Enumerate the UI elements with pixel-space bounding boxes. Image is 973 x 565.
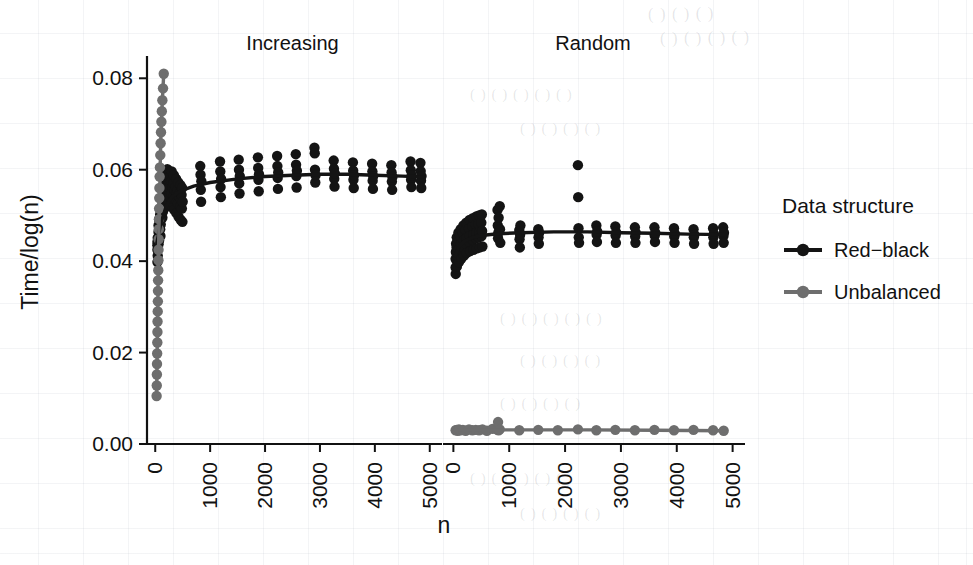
data-point [573,160,583,170]
legend-key-unbalanced[interactable] [784,286,822,298]
x-tick-label: 1000 [497,462,520,509]
data-point [573,192,583,202]
data-point [718,238,728,248]
series-points-red-black [152,143,427,268]
data-point [708,239,718,249]
y-tick-label: 0.02 [92,341,133,364]
scanned-page: ( ) ( ) ( )( ) ( ) ( ) ( )( ) ( ) ( ) ( … [0,0,973,565]
data-point [254,186,264,196]
data-point [368,184,378,194]
x-tick-label: 3000 [609,462,632,509]
data-point [215,156,225,166]
y-axis-title: Time/log(n) [17,194,43,309]
data-point [196,197,206,207]
data-point [630,238,640,248]
panel-title-random: Random [555,32,631,54]
data-point [477,241,487,251]
series-points-unbalanced [450,417,728,436]
data-point [515,242,525,252]
data-point [669,238,679,248]
data-point [310,148,320,158]
data-point [406,182,416,192]
data-point [234,188,244,198]
data-point [177,197,187,207]
x-tick-label: 5000 [721,462,744,509]
data-point [477,209,487,219]
data-point [493,213,503,223]
data-point [534,239,544,249]
data-point [515,220,525,230]
data-point [592,237,602,247]
x-tick-label: 2000 [253,462,276,509]
x-tick-label: 2000 [553,462,576,509]
data-point [291,182,301,192]
x-tick-label: 1000 [198,462,221,509]
x-tick-label: 4000 [363,462,386,509]
legend-key-dot [797,286,809,298]
data-point [272,151,282,161]
data-point [495,238,505,248]
legend-key-dot [797,244,809,256]
y-tick-label: 0.08 [92,66,133,89]
data-point [329,181,339,191]
x-tick-label: 5000 [418,462,441,509]
legend-key-red-black[interactable] [784,244,822,256]
x-tick-label: 0 [143,462,166,474]
data-point [574,238,584,248]
x-tick-label: 3000 [308,462,331,509]
fit-line-unbalanced [455,430,726,431]
data-point [387,185,397,195]
data-point [650,237,660,247]
panel-title-increasing: Increasing [246,32,338,54]
data-point [177,217,187,227]
x-tick-label: 0 [441,462,464,474]
data-point [416,183,426,193]
data-point [291,149,301,159]
data-point [273,184,283,194]
x-axis-title: n [438,512,451,538]
y-tick-label: 0.00 [92,432,133,455]
data-point [611,238,621,248]
data-point [495,201,505,211]
data-point [719,228,729,238]
legend-label: Unbalanced [834,281,941,303]
data-point [689,239,699,249]
data-point [233,154,243,164]
faceted-scatter-chart: 0.000.020.040.060.08Time/log(n)Increasin… [0,0,973,565]
series-points-red-black [450,160,729,279]
data-point [216,192,226,202]
legend-label: Red−black [834,239,930,261]
data-point [253,152,263,162]
x-tick-label: 4000 [665,462,688,509]
y-tick-label: 0.06 [92,158,133,181]
legend-title: Data structure [782,194,914,217]
y-tick-label: 0.04 [92,249,133,272]
data-point [349,183,359,193]
legend: Data structureRed−blackUnbalanced [782,194,941,303]
fit-line-red-black [157,174,423,243]
